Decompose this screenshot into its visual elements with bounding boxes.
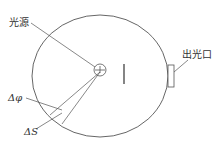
light-source-label: 光源 bbox=[9, 18, 29, 28]
delta-phi-leader bbox=[26, 98, 62, 110]
exit-port-leader bbox=[174, 60, 188, 72]
delta-s-leader bbox=[36, 113, 62, 129]
delta-s-label: ΔS bbox=[24, 127, 38, 137]
light-source-icon bbox=[94, 64, 106, 76]
cone-line-right bbox=[62, 72, 100, 124]
exit-port bbox=[168, 65, 174, 87]
integrating-sphere-diagram: 光源 出光口 Δφ ΔS bbox=[0, 0, 218, 153]
exit-port-label: 出光口 bbox=[182, 50, 212, 60]
light-source-leader bbox=[31, 23, 95, 67]
delta-phi-label: Δφ bbox=[8, 93, 22, 103]
